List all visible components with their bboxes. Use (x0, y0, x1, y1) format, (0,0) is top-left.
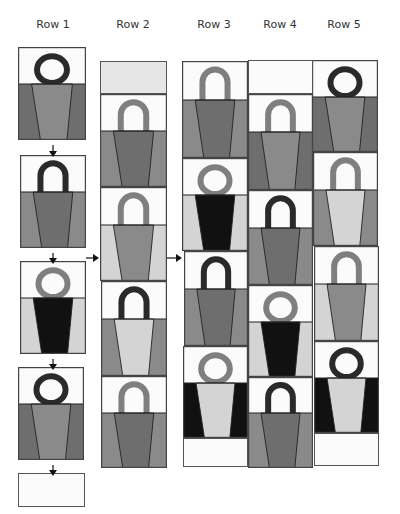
column-label-1: Row 1 (18, 18, 88, 31)
column-label-5: Row 5 (309, 18, 379, 31)
column-label-2: Row 2 (98, 18, 168, 31)
bag-tile (248, 190, 313, 285)
column-label-3: Row 3 (179, 18, 249, 31)
arrow-down-icon (48, 142, 58, 161)
blank-box (183, 438, 248, 467)
bag-tile (100, 187, 167, 281)
blank-box (314, 433, 379, 466)
bag-tile (248, 94, 313, 190)
bag-tile (101, 376, 167, 468)
arrow-right-icon (86, 248, 99, 267)
bag-tile (248, 285, 313, 377)
bag-tile (18, 367, 84, 460)
bag-tile (314, 341, 379, 433)
blank-box (100, 61, 167, 94)
bag-tile (248, 377, 313, 468)
bag-tile (20, 261, 86, 354)
bag-tile (100, 94, 167, 187)
arrow-right-icon (167, 248, 182, 267)
bag-tile (182, 61, 248, 158)
bag-tile (20, 155, 86, 248)
bag-tile (18, 47, 86, 140)
bag-tile (184, 251, 248, 346)
bag-tile (182, 158, 248, 251)
bag-tile (314, 246, 379, 341)
bag-tile (101, 281, 167, 376)
arrow-down-icon (48, 249, 58, 268)
arrow-down-icon (48, 355, 58, 374)
blank-box (248, 60, 313, 94)
bag-tile (183, 346, 248, 438)
arrow-down-icon (48, 461, 58, 480)
bag-tile (312, 60, 378, 152)
bag-tile (313, 152, 378, 246)
column-label-4: Row 4 (245, 18, 315, 31)
